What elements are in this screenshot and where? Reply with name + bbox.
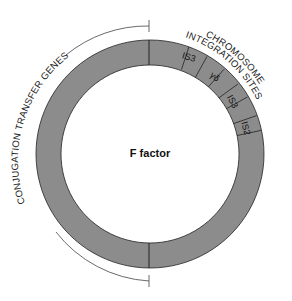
f-factor-title: F factor — [130, 147, 171, 159]
f-factor-plasmid-diagram: IS3 γδ IS3 IS2 CONJUGATION TRANSFER GENE… — [0, 0, 292, 301]
